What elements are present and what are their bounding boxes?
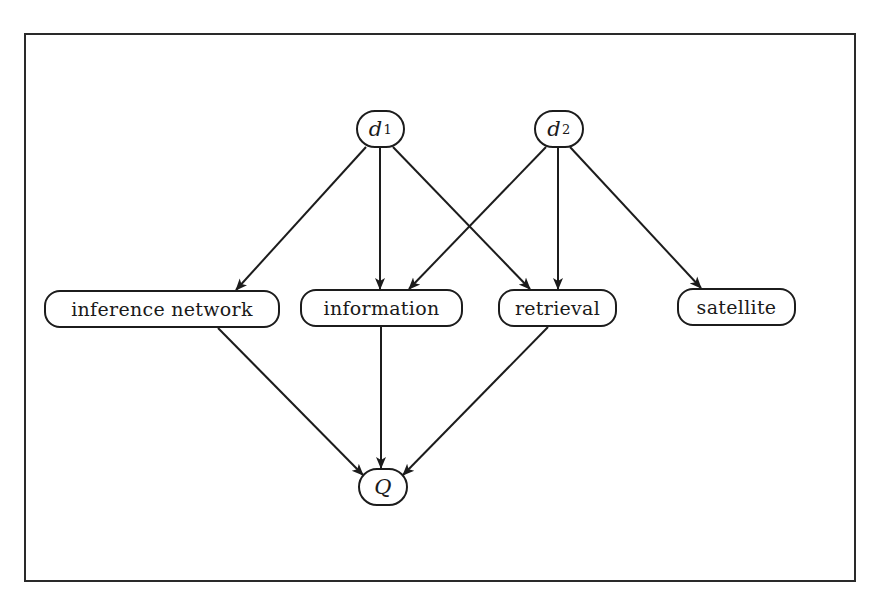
edge-d2-to-information bbox=[409, 147, 546, 289]
node-label: Q bbox=[374, 475, 392, 499]
node-label: d bbox=[369, 117, 383, 141]
edge-retrieval-to-Q bbox=[403, 327, 548, 475]
edge-d1-to-retrieval bbox=[393, 147, 530, 289]
node-satellite: satellite bbox=[677, 288, 796, 326]
node-label: inference network bbox=[71, 298, 253, 320]
node-label: retrieval bbox=[515, 297, 600, 319]
node-label: information bbox=[324, 297, 440, 319]
node-label: d bbox=[547, 117, 561, 141]
edge-inference_network-to-Q bbox=[218, 328, 363, 475]
edge-d1-to-inference_network bbox=[236, 147, 366, 290]
node-d1: d1 bbox=[356, 110, 405, 148]
node-d2: d2 bbox=[534, 110, 584, 148]
node-inference-network: inference network bbox=[44, 290, 280, 328]
node-retrieval: retrieval bbox=[498, 289, 617, 327]
node-subscript: 1 bbox=[384, 122, 393, 137]
edge-d2-to-satellite bbox=[570, 147, 701, 288]
node-label: satellite bbox=[697, 296, 777, 318]
node-subscript: 2 bbox=[562, 122, 571, 137]
node-information: information bbox=[300, 289, 463, 327]
node-Q: Q bbox=[358, 468, 408, 506]
